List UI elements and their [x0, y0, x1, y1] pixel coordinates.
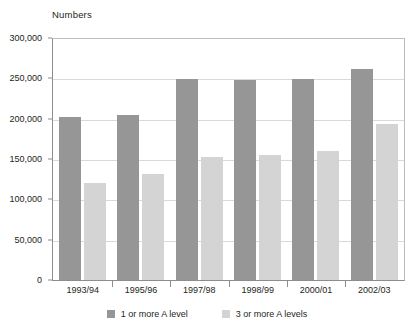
- chart-legend: 1 or more A level3 or more A levels: [0, 309, 414, 319]
- x-axis-tick-mark: [112, 281, 113, 287]
- y-axis: 050,000100,000150,000200,000250,000300,0…: [0, 38, 48, 281]
- legend-item-label: 1 or more A level: [121, 309, 188, 319]
- x-axis-tick-label: 1998/99: [241, 284, 274, 296]
- x-axis-tick-label: 1993/94: [66, 284, 99, 296]
- bar-series-a: [59, 117, 81, 280]
- bar-group: [112, 38, 170, 280]
- x-axis-tick-label: 2002/03: [358, 284, 391, 296]
- legend-item[interactable]: 1 or more A level: [107, 309, 188, 319]
- bar-series-a: [117, 115, 139, 280]
- y-axis-tick-label: 200,000: [9, 114, 42, 123]
- bar-group: [54, 38, 112, 280]
- bar-series-b: [376, 124, 398, 280]
- y-axis-tick-label: 250,000: [9, 74, 42, 83]
- x-axis-tick-mark: [170, 281, 171, 287]
- legend-swatch-3-or-more-a-levels: [222, 310, 230, 318]
- bar-group: [229, 38, 287, 280]
- y-axis-tick-label: 0: [37, 276, 42, 285]
- bar-series-b: [142, 174, 164, 280]
- y-axis-tick-label: 300,000: [9, 34, 42, 43]
- x-axis-tick-mark: [287, 281, 288, 287]
- x-axis-tick-label: 2000/01: [300, 284, 333, 296]
- bar-chart-figure: Numbers 050,000100,000150,000200,000250,…: [0, 0, 414, 332]
- bar-series-a: [292, 79, 314, 280]
- x-axis-tick-mark: [345, 281, 346, 287]
- bar-series-a: [176, 79, 198, 280]
- legend-item[interactable]: 3 or more A levels: [222, 309, 308, 319]
- bar-series-a: [351, 69, 373, 280]
- x-axis-tick-mark: [229, 281, 230, 287]
- y-axis-tick-label: 50,000: [14, 235, 42, 244]
- bar-group: [345, 38, 403, 280]
- bar-group: [170, 38, 228, 280]
- y-axis-tick-label: 100,000: [9, 195, 42, 204]
- legend-swatch-1-or-more-a-level: [107, 310, 115, 318]
- bar-series-a: [234, 80, 256, 280]
- bar-series-b: [84, 183, 106, 280]
- chart-title: Numbers: [52, 9, 92, 20]
- bar-series-b: [201, 157, 223, 280]
- bar-series-b: [259, 155, 281, 280]
- bars-layer: [54, 38, 404, 280]
- x-axis-tick-label: 1997/98: [183, 284, 216, 296]
- y-axis-tick-label: 150,000: [9, 155, 42, 164]
- legend-item-label: 3 or more A levels: [236, 309, 308, 319]
- x-axis-tick-label: 1995/96: [125, 284, 158, 296]
- bar-series-b: [317, 151, 339, 280]
- bar-group: [287, 38, 345, 280]
